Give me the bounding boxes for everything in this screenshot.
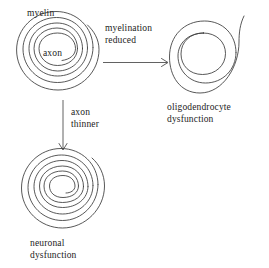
label-line-2: dysfunction <box>30 250 77 262</box>
node-neuronal-dysfunction <box>22 149 105 229</box>
label-line-1: neuronal <box>30 238 77 250</box>
node-oligodendrocyte-dysfunction <box>170 16 245 93</box>
label-line-2: thinner <box>71 119 99 131</box>
myelin-spiral-thin-turn4 <box>40 166 89 208</box>
diagram-canvas: myelin axon myelination reduced axon thi… <box>0 0 269 268</box>
label-line-2: reduced <box>105 35 152 47</box>
axon-core-reduced <box>181 33 226 75</box>
myelin-spiral-thin-turn3 <box>34 161 93 215</box>
myelin-spiral-thin-turn2 <box>28 155 98 221</box>
label-axon: axon <box>43 48 62 60</box>
label-myelination-reduced: myelination reduced <box>105 23 152 46</box>
label-line-1: oligodendrocyte <box>167 102 231 114</box>
axon-core-thin <box>50 176 79 198</box>
label-neuronal-dysfunction: neuronal dysfunction <box>30 238 77 261</box>
label-line-1: myelination <box>105 23 152 35</box>
label-myelin: myelin <box>27 8 54 20</box>
myelin-spiral-reduced-turn2 <box>178 33 236 83</box>
label-oligodendrocyte-dysfunction: oligodendrocyte dysfunction <box>167 102 231 125</box>
label-line-2: dysfunction <box>167 114 231 126</box>
label-line-1: axon <box>71 107 99 119</box>
arrow-myelination-reduced <box>103 59 168 67</box>
label-axon-thinner: axon thinner <box>71 107 99 130</box>
arrow-axon-thinner <box>59 100 67 150</box>
